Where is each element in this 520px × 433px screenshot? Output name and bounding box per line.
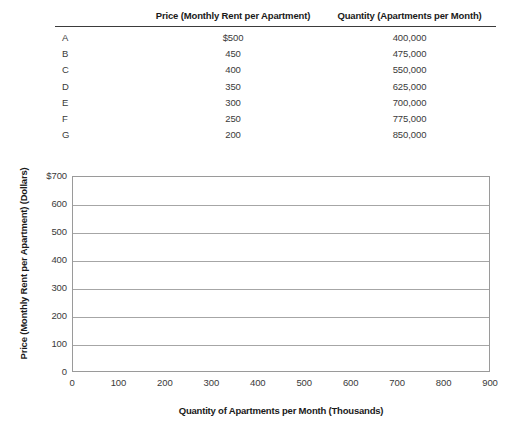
row-label: G [55, 127, 143, 143]
plot-area[interactable] [72, 176, 490, 372]
x-axis-tick-labels: 0100200300400500600700800900 [72, 378, 490, 392]
price-cell: $500 [143, 27, 323, 47]
y-tick-label: 200 [30, 311, 67, 321]
x-tick-label: 400 [250, 378, 266, 388]
quantity-cell: 850,000 [323, 127, 496, 143]
x-tick-label: 800 [436, 378, 452, 388]
x-tick-label: 300 [204, 378, 220, 388]
quantity-cell: 400,000 [323, 27, 496, 47]
table-row: A$500400,000 [55, 27, 496, 47]
x-tick-label: 900 [482, 378, 498, 388]
gridline [73, 345, 489, 346]
table-header-row: Price (Monthly Rent per Apartment) Quant… [55, 10, 496, 27]
row-label: B [55, 46, 143, 62]
table-row: B450475,000 [55, 46, 496, 62]
table-row: C400550,000 [55, 62, 496, 78]
demand-schedule-table: Price (Monthly Rent per Apartment) Quant… [55, 10, 496, 143]
y-tick-label: 400 [30, 255, 67, 265]
y-tick-label: 0 [30, 367, 67, 377]
x-tick-label: 700 [389, 378, 405, 388]
row-label: D [55, 79, 143, 95]
quantity-cell: 700,000 [323, 95, 496, 111]
row-label: A [55, 27, 143, 47]
column-header-quantity: Quantity (Apartments per Month) [323, 10, 496, 27]
gridline [73, 205, 489, 206]
quantity-cell: 775,000 [323, 111, 496, 127]
y-tick-label: 100 [30, 339, 67, 349]
x-tick-label: 100 [111, 378, 127, 388]
price-cell: 250 [143, 111, 323, 127]
price-cell: 300 [143, 95, 323, 111]
price-cell: 350 [143, 79, 323, 95]
table-row: D350625,000 [55, 79, 496, 95]
table-header: Price (Monthly Rent per Apartment) Quant… [55, 10, 496, 27]
column-header-row-label [55, 10, 143, 27]
y-tick-label: $700 [30, 171, 67, 181]
y-axis-tick-labels: 0100200300400500600$700 [30, 176, 67, 372]
table-body: A$500400,000B450475,000C400550,000D35062… [55, 27, 496, 144]
row-label: E [55, 95, 143, 111]
column-header-price: Price (Monthly Rent per Apartment) [143, 10, 323, 27]
table-row: E300700,000 [55, 95, 496, 111]
gridline [73, 317, 489, 318]
gridline [73, 289, 489, 290]
y-tick-label: 600 [30, 199, 67, 209]
x-tick-label: 200 [157, 378, 173, 388]
gridline [73, 261, 489, 262]
x-tick-label: 500 [296, 378, 312, 388]
gridline [73, 233, 489, 234]
y-tick-label: 500 [30, 227, 67, 237]
x-tick-label: 600 [343, 378, 359, 388]
row-label: F [55, 111, 143, 127]
y-tick-label: 300 [30, 283, 67, 293]
quantity-cell: 475,000 [323, 46, 496, 62]
price-cell: 400 [143, 62, 323, 78]
quantity-cell: 550,000 [323, 62, 496, 78]
price-quantity-table: Price (Monthly Rent per Apartment) Quant… [55, 10, 496, 143]
table-row: F250775,000 [55, 111, 496, 127]
price-cell: 450 [143, 46, 323, 62]
x-tick-label: 0 [69, 378, 74, 388]
quantity-cell: 625,000 [323, 79, 496, 95]
table-row: G200850,000 [55, 127, 496, 143]
demand-curve-chart: Price (Monthly Rent per Apartment) (Doll… [0, 160, 520, 433]
y-axis-title: Price (Monthly Rent per Apartment) (Doll… [18, 153, 29, 375]
x-axis-title: Quantity of Apartments per Month (Thousa… [72, 405, 490, 416]
row-label: C [55, 62, 143, 78]
price-cell: 200 [143, 127, 323, 143]
